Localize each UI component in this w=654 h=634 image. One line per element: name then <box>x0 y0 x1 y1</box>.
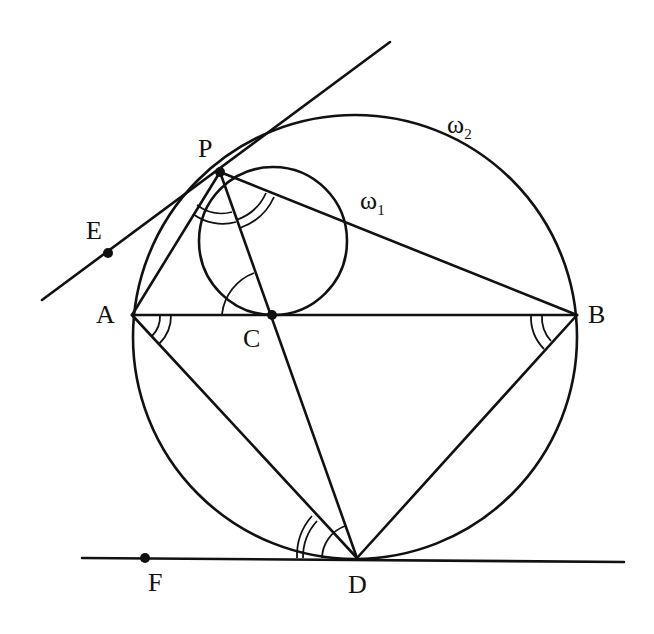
label-omega2: ω2 <box>447 112 472 142</box>
angle-marks <box>152 193 551 558</box>
label-F: F <box>148 570 162 596</box>
label-P: P <box>198 136 212 162</box>
point-F <box>140 553 150 563</box>
point-P <box>215 167 225 177</box>
omega1-symbol: ω <box>360 186 377 215</box>
segment-PA <box>132 172 220 315</box>
geometry-diagram: P E A B C D F ω1 ω2 <box>0 0 654 634</box>
point-E <box>103 248 113 258</box>
label-E: E <box>86 218 102 244</box>
omega2-subscript: 2 <box>464 126 472 142</box>
point-C <box>267 310 277 320</box>
omega2-symbol: ω <box>447 110 464 139</box>
label-B: B <box>588 302 605 328</box>
segment-BD <box>357 315 577 558</box>
omega1-subscript: 1 <box>377 202 385 218</box>
circle-omega1 <box>199 167 347 315</box>
label-omega1: ω1 <box>360 188 385 218</box>
label-C: C <box>243 326 260 352</box>
label-A: A <box>96 302 115 328</box>
segment-PD <box>220 172 357 558</box>
label-D: D <box>348 572 367 598</box>
